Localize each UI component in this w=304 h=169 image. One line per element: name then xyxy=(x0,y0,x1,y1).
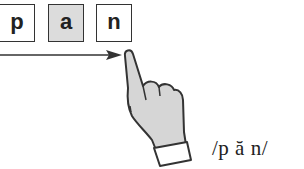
right-arrow-icon xyxy=(0,50,122,60)
pronunciation-label: /p ă n/ xyxy=(212,136,268,161)
pointing-hand-icon xyxy=(125,50,191,166)
